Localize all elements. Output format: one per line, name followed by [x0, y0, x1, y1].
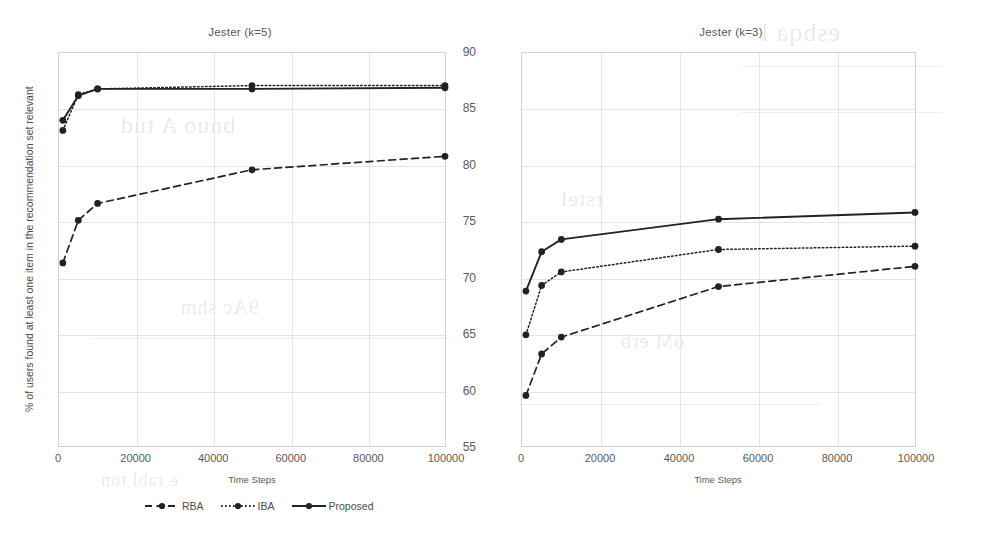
data-point-marker — [912, 209, 919, 216]
data-point-marker — [912, 243, 919, 250]
x-axis-title-right: Time Steps — [694, 474, 742, 485]
data-point-marker — [59, 260, 66, 267]
legend-item-rba[interactable]: RBA — [145, 500, 204, 512]
y-axis-tick-label: 70 — [446, 271, 476, 285]
y-axis-tick-label: 90 — [446, 45, 476, 59]
legend-swatch-solid — [292, 501, 326, 511]
data-point-marker — [249, 86, 256, 93]
x-axis-tick-label: 0 — [518, 452, 524, 464]
x-axis-tick-label: 0 — [55, 452, 61, 464]
data-point-marker — [59, 127, 66, 134]
legend-label: RBA — [182, 500, 204, 512]
y-axis-title: % of users found at least one item in th… — [24, 52, 40, 447]
y-axis-tick-label: 85 — [446, 101, 476, 115]
y-axis-tick-label: 80 — [446, 158, 476, 172]
data-point-marker — [538, 351, 545, 358]
data-point-marker — [523, 288, 530, 295]
y-axis-tick-labels: 9085807570656055 — [446, 0, 480, 538]
series-line-iba — [63, 86, 445, 131]
data-point-marker — [715, 283, 722, 290]
legend-label: Proposed — [329, 500, 374, 512]
series-line-proposed — [63, 88, 445, 121]
data-point-marker — [75, 217, 82, 224]
data-point-marker — [715, 216, 722, 223]
data-point-marker — [523, 331, 530, 338]
legend-item-proposed[interactable]: Proposed — [292, 500, 374, 512]
data-point-marker — [558, 236, 565, 243]
y-axis-tick-label: 65 — [446, 327, 476, 341]
plot-area-right — [521, 52, 916, 447]
legend-label: IBA — [258, 500, 275, 512]
legend-swatch-dotted — [221, 501, 255, 511]
series-line-iba — [526, 246, 915, 335]
series-layer-left — [59, 53, 445, 446]
data-point-marker — [94, 200, 101, 207]
x-axis-tick-label: 20000 — [120, 452, 151, 464]
y-axis-tick-label: 75 — [446, 214, 476, 228]
legend-left: RBAIBAProposed — [145, 500, 373, 512]
x-axis-tick-label: 60000 — [743, 452, 774, 464]
x-axis-tick-label: 80000 — [822, 452, 853, 464]
chart-panel-right: Jester (k=3) 020000400006000080000100000… — [480, 0, 982, 538]
x-axis-tick-label: 80000 — [353, 452, 384, 464]
y-axis-tick-label: 55 — [446, 440, 476, 454]
data-point-marker — [558, 334, 565, 341]
x-axis-tick-label: 40000 — [664, 452, 695, 464]
data-point-marker — [75, 92, 82, 99]
y-axis-tick-label: 60 — [446, 384, 476, 398]
data-point-marker — [912, 263, 919, 270]
chart-title-right: Jester (k=3) — [480, 26, 982, 38]
figure-container: Jester (k=5) % of users found at least o… — [0, 0, 982, 538]
plot-area-left — [58, 52, 446, 447]
data-point-marker — [94, 86, 101, 93]
data-point-marker — [538, 282, 545, 289]
data-point-marker — [523, 392, 530, 399]
x-axis-tick-label: 40000 — [198, 452, 229, 464]
legend-item-iba[interactable]: IBA — [221, 500, 275, 512]
data-point-marker — [538, 248, 545, 255]
data-point-marker — [715, 246, 722, 253]
series-layer-right — [522, 53, 915, 446]
data-point-marker — [59, 117, 66, 124]
x-axis-tick-label: 100000 — [898, 452, 935, 464]
chart-title-left: Jester (k=5) — [0, 26, 480, 38]
x-axis-tick-label: 20000 — [585, 452, 616, 464]
legend-swatch-dashed — [145, 501, 179, 511]
chart-panel-left: Jester (k=5) % of users found at least o… — [0, 0, 480, 538]
x-axis-tick-label: 60000 — [276, 452, 307, 464]
x-axis-title-left: Time Steps — [228, 474, 276, 485]
data-point-marker — [249, 166, 256, 173]
data-point-marker — [558, 269, 565, 276]
